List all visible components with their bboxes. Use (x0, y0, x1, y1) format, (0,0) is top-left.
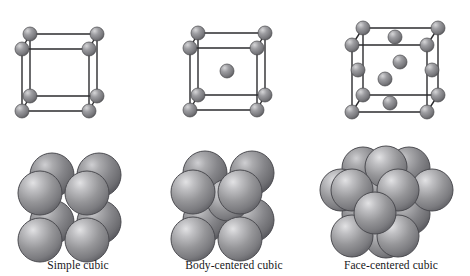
caption-simple-cubic: Simple cubic (0, 259, 156, 271)
cell-body-centered-cubic: Body-centered cubic (156, 0, 312, 276)
caption-body-centered-cubic: Body-centered cubic (156, 259, 312, 271)
crystal-lattice-figure: Simple cubic Body-centered cubic Face-ce… (0, 0, 470, 276)
caption-face-centered-cubic: Face-centered cubic (312, 259, 470, 271)
cell-face-centered-cubic: Face-centered cubic (312, 0, 470, 276)
cell-simple-cubic: Simple cubic (0, 0, 156, 276)
